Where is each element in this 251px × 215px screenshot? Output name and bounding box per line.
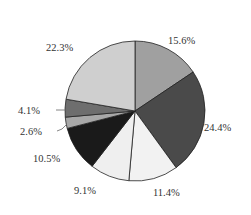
pie-chart: 15.6%24.4%11.4%9.1%10.5%2.6%4.1%22.3%: [0, 0, 251, 215]
pie-slice: [66, 41, 135, 111]
slice-label: 15.6%: [168, 35, 195, 46]
slice-label: 11.4%: [153, 187, 180, 198]
slice-label: 10.5%: [33, 153, 60, 164]
pie-slices: [65, 41, 205, 181]
slice-label: 22.3%: [46, 42, 73, 53]
leader-line: [57, 124, 67, 131]
slice-label: 24.4%: [204, 122, 231, 133]
slice-label: 9.1%: [74, 185, 96, 196]
slice-label: 4.1%: [18, 105, 40, 116]
slice-label: 2.6%: [20, 126, 42, 137]
